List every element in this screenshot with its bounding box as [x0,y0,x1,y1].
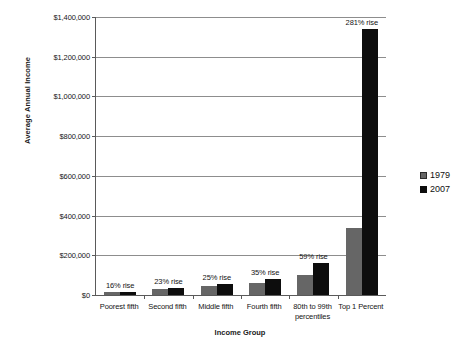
bar-2007-top-1-percent[interactable] [362,29,378,295]
x-axis-label-80th-to-99th-percentiles: 80th to 99th percentiles [288,302,336,322]
bar-2007-middle-fifth[interactable] [217,284,233,295]
bar-group-bars [144,17,192,295]
plot-area: $1,400,000$1,200,000$1,000,000$800,000$6… [95,17,386,296]
x-axis-label-middle-fifth: Middle fifth [192,302,240,312]
bar-annotation: 16% rise [106,281,134,290]
x-axis-tick [241,295,242,299]
y-axis-tick-label: $1,400,000 [53,13,90,22]
legend-item-2007[interactable]: 2007 [420,182,450,196]
legend-label: 2007 [430,184,450,194]
bar-1979-top-1-percent[interactable] [346,228,362,296]
x-axis-tick [144,295,145,299]
bar-annotation: 281% rise [346,18,378,27]
x-axis-tick [338,295,339,299]
bar-2007-80th-to-99th-percentiles[interactable] [313,263,329,295]
bar-annotation: 23% rise [154,277,182,286]
y-axis-tick-label: $200,000 [60,251,90,260]
x-axis-label-top-1-percent: Top 1 Percent [337,302,385,312]
bar-group: 16% rise [96,17,144,295]
x-axis-tick [289,295,290,299]
legend-label: 1979 [430,170,450,180]
y-axis-tick-label: $1,000,000 [53,92,90,101]
y-axis-tick-label: $400,000 [60,211,90,220]
legend-item-1979[interactable]: 1979 [420,168,450,182]
legend-swatch-icon [420,186,427,193]
x-axis-title: Income Group [95,328,385,337]
legend-swatch-icon [420,172,427,179]
bar-1979-80th-to-99th-percentiles[interactable] [297,275,313,295]
bar-group: 59% rise [289,17,337,295]
bar-2007-fourth-fifth[interactable] [265,279,281,295]
bar-group-bars [241,17,289,295]
bar-1979-fourth-fifth[interactable] [249,283,265,295]
x-axis-label-second-fifth: Second fifth [143,302,191,312]
x-axis-label-fourth-fifth: Fourth fifth [240,302,288,312]
bar-2007-poorest-fifth[interactable] [120,292,136,295]
y-axis-tick-label: $0 [82,291,90,300]
bar-1979-second-fifth[interactable] [152,289,168,295]
chart-legend: 19792007 [420,168,450,196]
bar-group: 25% rise [193,17,241,295]
y-axis-tick [92,295,96,296]
y-axis-title: Average Annual Income [23,26,32,176]
x-axis-tick [193,295,194,299]
y-axis-tick-label: $800,000 [60,132,90,141]
bar-annotation: 25% rise [203,273,231,282]
bar-chart: Average Annual Income $1,400,000$1,200,0… [0,0,474,347]
x-axis-label-poorest-fifth: Poorest fifth [95,302,143,312]
bar-group-bars [338,17,386,295]
y-axis-tick-label: $600,000 [60,171,90,180]
bar-annotation: 35% rise [251,268,279,277]
y-axis-tick-label: $1,200,000 [53,52,90,61]
bar-annotation: 59% rise [299,252,327,261]
bar-group-bars [96,17,144,295]
bar-1979-middle-fifth[interactable] [201,286,217,295]
bar-group: 23% rise [144,17,192,295]
bar-group: 35% rise [241,17,289,295]
bar-group-bars [193,17,241,295]
bar-group: 281% rise [338,17,386,295]
bar-1979-poorest-fifth[interactable] [104,292,120,295]
bar-2007-second-fifth[interactable] [168,288,184,295]
